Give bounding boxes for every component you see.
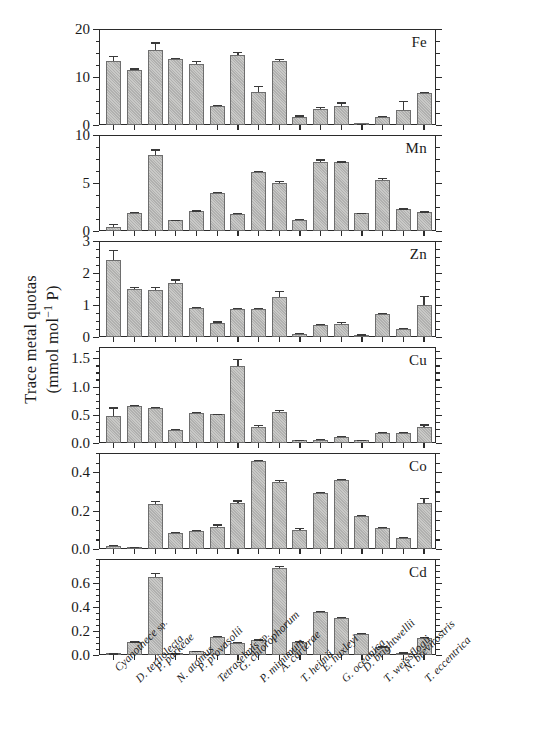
x-tick	[217, 337, 218, 342]
y-tick-minor-right	[436, 195, 440, 196]
y-tick-label: 10	[75, 127, 90, 144]
x-tick	[279, 125, 280, 130]
y-tick-major-right	[436, 125, 442, 126]
error-bar-cap	[357, 440, 366, 441]
y-tick-minor-right	[436, 453, 440, 454]
y-tick-major-right	[436, 443, 442, 444]
y-tick-label: 20	[75, 21, 90, 38]
x-tick	[113, 655, 114, 660]
y-tick-major-right	[436, 29, 442, 30]
error-bar-cap	[192, 530, 201, 531]
error-bar-cap	[337, 161, 346, 162]
x-tick	[237, 443, 238, 448]
x-tick	[361, 549, 362, 554]
y-tick-major-right	[436, 337, 442, 338]
y-tick-minor	[96, 571, 100, 572]
y-tick-minor-right	[436, 520, 440, 521]
bar	[272, 297, 287, 337]
y-tick-minor	[96, 281, 100, 282]
x-tick	[113, 549, 114, 554]
y-tick-label: 0.6	[71, 575, 90, 592]
y-tick-major	[93, 231, 99, 232]
y-tick-minor-right	[436, 408, 440, 409]
bar	[230, 503, 245, 549]
y-tick-minor-right	[436, 257, 440, 258]
x-tick	[423, 549, 424, 554]
x-tick	[403, 443, 404, 448]
y-tick-minor-right	[436, 429, 440, 430]
bar	[375, 528, 390, 549]
x-tick	[403, 125, 404, 130]
error-bar-cap	[130, 547, 139, 548]
bar	[313, 109, 328, 125]
x-tick	[155, 549, 156, 554]
y-tick-label: 0.0	[71, 647, 90, 664]
y-tick-major	[93, 443, 99, 444]
error-bar-cap	[171, 532, 180, 533]
bar	[230, 309, 245, 337]
y-tick-minor-right	[436, 365, 440, 366]
bar	[189, 211, 204, 231]
x-tick	[382, 443, 383, 448]
y-axis-units-exponent: −1	[41, 305, 55, 318]
error-bar-cap	[130, 287, 139, 288]
y-tick-label: 10	[75, 69, 90, 86]
y-tick-minor	[96, 113, 100, 114]
y-tick-major	[93, 583, 99, 584]
bar	[230, 214, 245, 231]
error-bar-cap	[192, 61, 201, 62]
y-tick-major	[93, 358, 99, 359]
bar	[251, 92, 266, 125]
y-tick-minor	[96, 589, 100, 590]
y-tick-major-right	[436, 358, 442, 359]
y-tick-major-right	[436, 387, 442, 388]
y-tick-minor	[96, 619, 100, 620]
bar	[354, 516, 369, 549]
y-tick-minor	[96, 601, 100, 602]
error-bar-cap	[151, 407, 160, 408]
y-tick-minor-right	[436, 41, 440, 42]
y-tick-minor-right	[436, 313, 440, 314]
error-bar-cap	[233, 359, 242, 360]
error-bar-cap	[233, 52, 242, 53]
error-bar-cap	[213, 321, 222, 322]
x-tick	[113, 231, 114, 236]
x-tick	[196, 337, 197, 342]
error-bar-cap	[337, 322, 346, 323]
x-tick	[320, 337, 321, 342]
element-symbol-mn: Mn	[406, 140, 427, 157]
x-tick	[237, 125, 238, 130]
y-tick-minor	[96, 41, 100, 42]
y-tick-minor	[96, 613, 100, 614]
y-tick-label: 0.5	[71, 406, 90, 423]
error-bar-cap	[316, 324, 325, 325]
x-tick	[320, 125, 321, 130]
y-tick-minor-right	[436, 589, 440, 590]
error-bar-cap	[420, 498, 429, 499]
x-tick	[113, 443, 114, 448]
x-tick	[134, 231, 135, 236]
error-bar-cap	[399, 537, 408, 538]
x-tick	[299, 231, 300, 236]
x-tick	[258, 549, 259, 554]
y-tick-minor	[96, 265, 100, 266]
error-bar-cap	[295, 440, 304, 441]
error-bar-cap	[213, 192, 222, 193]
y-tick-minor-right	[436, 649, 440, 650]
y-tick-minor-right	[436, 401, 440, 402]
error-bar-cap	[151, 42, 160, 43]
y-tick-minor-right	[436, 491, 440, 492]
x-tick	[299, 443, 300, 448]
x-tick	[341, 337, 342, 342]
x-tick	[423, 337, 424, 342]
error-bar-cap	[171, 429, 180, 430]
x-tick	[155, 337, 156, 342]
bar	[168, 533, 183, 549]
y-tick-minor	[96, 401, 100, 402]
x-tick	[423, 125, 424, 130]
y-tick-major	[93, 511, 99, 512]
y-tick-major	[93, 183, 99, 184]
bar	[189, 64, 204, 125]
error-bar	[113, 407, 114, 416]
x-tick	[217, 231, 218, 236]
